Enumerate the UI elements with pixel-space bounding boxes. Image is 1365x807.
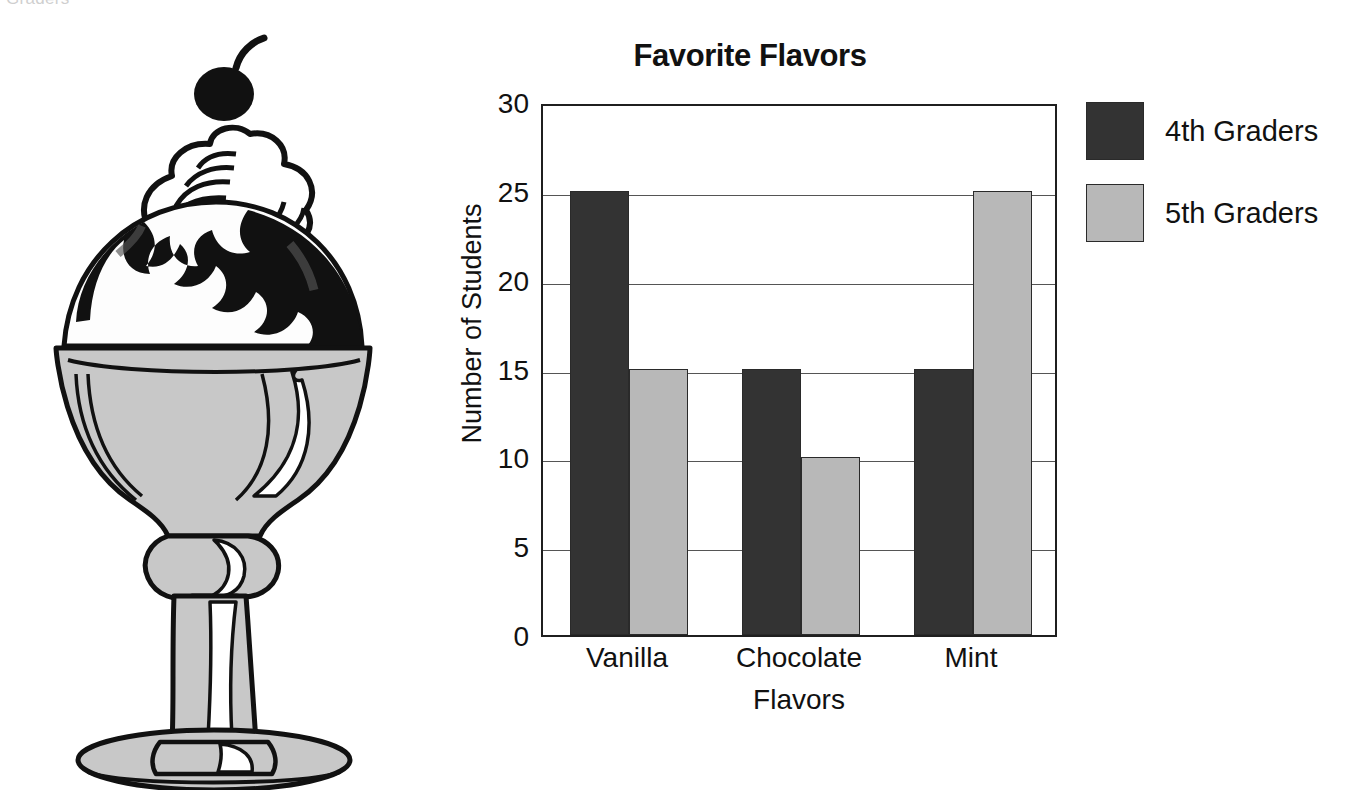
legend-label: 4th Graders xyxy=(1165,115,1318,148)
ice-cream-sundae-illustration xyxy=(40,30,420,790)
legend-swatch xyxy=(1086,184,1144,242)
x-tick-label: Vanilla xyxy=(586,642,668,674)
plot-area xyxy=(541,104,1057,637)
y-tick-label: 0 xyxy=(513,621,529,653)
bar-chart: Favorite Flavors Number of Students 3025… xyxy=(440,38,1080,728)
bar xyxy=(801,457,860,635)
x-tick-label: Mint xyxy=(945,642,998,674)
chart-legend: 4th Graders5th Graders xyxy=(1086,100,1356,264)
bars-group xyxy=(543,106,1055,635)
top-cutoff-caption: Graders xyxy=(6,0,70,9)
y-tick-label: 5 xyxy=(513,532,529,564)
x-axis-label: Flavors xyxy=(541,684,1057,716)
y-tick-label: 30 xyxy=(498,88,529,120)
bar xyxy=(973,191,1032,635)
y-axis-label: Number of Students xyxy=(457,174,488,474)
bar xyxy=(742,369,801,636)
legend-swatch xyxy=(1086,102,1144,160)
legend-item: 4th Graders xyxy=(1086,100,1356,162)
legend-label: 5th Graders xyxy=(1165,197,1318,230)
bar xyxy=(914,369,973,636)
y-tick-label: 15 xyxy=(498,355,529,387)
chart-title: Favorite Flavors xyxy=(440,38,1060,74)
legend-item: 5th Graders xyxy=(1086,182,1356,244)
bar xyxy=(570,191,629,635)
y-tick-label: 25 xyxy=(498,177,529,209)
bar xyxy=(629,369,688,636)
y-tick-label: 10 xyxy=(498,443,529,475)
y-tick-label: 20 xyxy=(498,266,529,298)
x-tick-label: Chocolate xyxy=(736,642,862,674)
worksheet-page: Graders xyxy=(0,0,1365,807)
